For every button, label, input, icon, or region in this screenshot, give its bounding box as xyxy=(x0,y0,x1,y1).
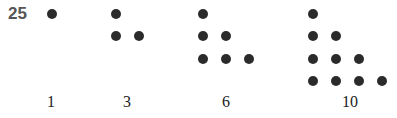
dot xyxy=(308,76,318,86)
dot xyxy=(221,54,231,64)
dot xyxy=(331,76,341,86)
dot xyxy=(308,54,318,64)
dot xyxy=(308,31,318,41)
dot xyxy=(198,9,208,19)
dot xyxy=(354,76,364,86)
dot xyxy=(47,9,57,19)
group-label: 10 xyxy=(342,92,358,112)
group-label: 1 xyxy=(47,92,55,112)
dot xyxy=(244,54,254,64)
dot xyxy=(331,31,341,41)
dot xyxy=(354,54,364,64)
dot xyxy=(221,31,231,41)
dot xyxy=(111,9,121,19)
dot xyxy=(111,31,121,41)
dot xyxy=(198,31,208,41)
group-label: 6 xyxy=(222,92,230,112)
group-label: 3 xyxy=(123,92,131,112)
dot xyxy=(331,54,341,64)
figure-number: 25 xyxy=(8,5,27,23)
dot xyxy=(377,76,387,86)
dot xyxy=(308,9,318,19)
dot xyxy=(134,31,144,41)
dot xyxy=(198,54,208,64)
